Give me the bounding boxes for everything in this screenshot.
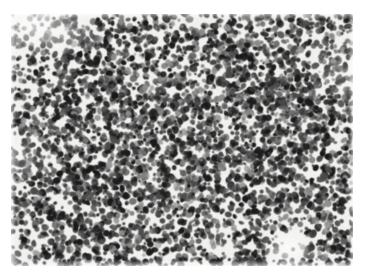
figure-root — [0, 0, 366, 279]
micrograph-canvas — [11, 14, 353, 266]
micrograph-image — [11, 14, 353, 266]
